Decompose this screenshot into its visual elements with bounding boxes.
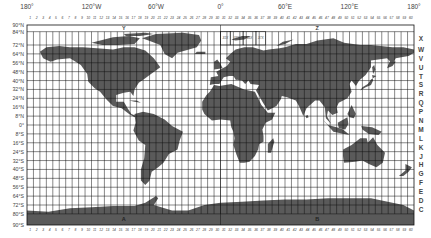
special-zone-label: 31X [223,36,230,40]
zone-number-top: 13 [106,16,110,20]
zone-number-bottom: 23 [169,228,174,232]
zone-number-top: 33 [235,16,239,20]
band-letter: T [419,73,423,80]
latitude-label: 64°S [13,193,25,199]
zone-number-bottom: 59 [402,228,406,232]
zone-number-bottom: 47 [325,228,329,232]
band-letter: H [419,161,424,168]
utm-zone-map: 180°120°W60°W0°60°E120°E180°112233445566… [0,0,431,238]
zone-number-top: 12 [99,16,103,20]
longitude-label: 180° [407,3,421,10]
zone-number-bottom: 49 [338,228,342,232]
zone-number-bottom: 44 [306,228,310,232]
zone-number-bottom: 20 [150,228,155,232]
zone-number-top: 6 [62,16,64,20]
zone-number-bottom: 42 [293,228,297,232]
zone-number-bottom: 2 [35,228,38,232]
zone-number-bottom: 24 [176,228,181,232]
zone-number-bottom: 22 [163,228,168,232]
zone-number-bottom: 27 [195,228,200,232]
zone-number-top: 5 [55,16,57,20]
zone-number-bottom: 50 [344,228,348,232]
zone-number-bottom: 34 [241,228,245,232]
zone-number-top: 31 [222,16,226,20]
land-polygon [92,36,140,45]
zone-number-bottom: 15 [119,228,123,232]
zone-number-top: 58 [396,16,400,20]
zone-number-top: 19 [144,16,148,20]
land-polygon [214,59,223,69]
latitude-label: 16°S [13,140,25,146]
longitude-label: 60°E [278,3,293,10]
zone-number-bottom: 1 [29,228,31,232]
zone-number-bottom: 9 [81,228,83,232]
zone-number-top: 50 [344,16,348,20]
zone-number-bottom: 3 [42,228,44,232]
zone-number-top: 25 [182,16,187,20]
latitude-label: 64°N [12,51,24,57]
latitude-label: 40°N [12,78,24,84]
band-letter: N [419,117,424,124]
latitude-label: 90°N [12,22,24,28]
zone-number-top: 48 [332,16,336,20]
band-letter: S [419,81,424,88]
zone-number-top: 51 [351,16,355,20]
zone-number-bottom: 57 [390,228,394,232]
zone-number-bottom: 31 [222,228,226,232]
zone-number-top: 1 [29,16,31,20]
zone-number-bottom: 58 [396,228,400,232]
polar-zone-label: A [122,216,126,222]
zone-number-bottom: 4 [49,228,51,232]
special-zone-label: 33X [234,36,241,40]
zone-number-bottom: 45 [312,228,316,232]
latitude-label: 32°N [12,86,24,92]
zone-number-top: 3 [42,16,44,20]
zone-number-bottom: 11 [93,228,97,232]
zone-number-bottom: 60 [409,228,413,232]
latitude-label: 84°N [12,29,24,35]
zone-number-top: 49 [338,16,342,20]
zone-number-bottom: 52 [357,228,361,232]
zone-number-bottom: 55 [377,228,381,232]
longitude-label: 0° [217,3,224,10]
zone-number-bottom: 46 [319,228,323,232]
zone-number-top: 7 [68,16,70,20]
zone-number-bottom: 19 [144,228,148,232]
land-polygon [195,52,206,54]
zone-number-bottom: 6 [62,228,64,232]
latitude-label: 48°S [13,175,25,181]
zone-number-top: 55 [377,16,381,20]
band-letter: D [419,197,424,204]
latitude-label: 0° [19,122,24,128]
zone-number-bottom: 17 [132,228,136,232]
land-polygon [372,65,375,74]
zone-number-bottom: 14 [112,228,116,232]
latitude-label: 48°N [12,69,24,75]
band-letter: U [419,64,424,71]
zone-number-bottom: 30 [215,228,219,232]
latitude-label: 90°S [13,222,25,228]
latitude-label: 32°S [13,158,25,164]
zone-number-top: 34 [241,16,245,20]
zone-number-top: 36 [254,16,258,20]
latitude-label: 56°N [12,60,24,66]
zone-number-bottom: 40 [280,228,284,232]
zone-number-top: 4 [49,16,51,20]
zone-number-top: 35 [248,16,252,20]
zone-number-top: 2 [35,16,38,20]
zone-number-bottom: 8 [74,228,76,232]
zone-number-top: 15 [119,16,123,20]
zone-number-bottom: 12 [99,228,103,232]
latitude-label: 80°S [13,211,25,217]
zone-number-bottom: 28 [202,228,207,232]
zone-number-top: 56 [383,16,387,20]
zone-number-top: 60 [409,16,413,20]
zone-number-top: 32 [228,16,232,20]
zone-number-top: 53 [364,16,368,20]
zone-number-bottom: 16 [125,228,129,232]
latitude-label: 40°S [13,166,25,172]
zone-number-top: 20 [150,16,155,20]
zone-number-top: 43 [299,16,303,20]
special-zone-label: 37X [258,36,265,40]
zone-number-top: 14 [112,16,116,20]
